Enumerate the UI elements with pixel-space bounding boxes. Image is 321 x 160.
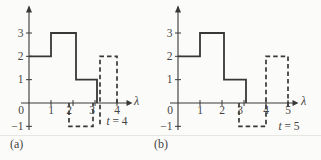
x-tick-label-2: 2 <box>219 104 225 116</box>
x-tick-label-0: 0 <box>167 104 173 116</box>
y-tick-label--1: −1 <box>160 120 172 132</box>
chart-a: 01234−1123 <box>11 6 132 132</box>
x-tick-label-3: 3 <box>237 104 243 116</box>
y-tick-label-3: 3 <box>167 27 173 39</box>
x-tick-label-1: 1 <box>48 104 54 116</box>
x-axis-label-lambda-b: λ <box>301 95 306 108</box>
time-annotation-a: t = 4 <box>100 115 134 128</box>
y-tick-label-1: 1 <box>18 73 24 85</box>
x-axis-label-lambda-a: λ <box>134 95 139 108</box>
y-tick-label-2: 2 <box>167 50 173 62</box>
convolution-step-figure: 01234−1123012345−1123 λ λ t = 4 t = 5 (a… <box>0 0 321 160</box>
chart-b: 012345−1123 <box>160 6 298 132</box>
y-axis-arrow <box>175 6 181 13</box>
x-tick-label-3: 3 <box>89 104 95 116</box>
y-tick-label-3: 3 <box>18 27 24 39</box>
solid-step-line <box>29 33 97 103</box>
subfigure-caption-b: (b) <box>154 138 168 151</box>
y-tick-label-2: 2 <box>18 50 24 62</box>
y-axis-arrow <box>26 6 32 13</box>
x-axis-arrow <box>293 100 299 106</box>
x-tick-label-0: 0 <box>18 104 24 116</box>
y-tick-label--1: −1 <box>11 120 23 132</box>
charts-canvas: 01234−1123012345−1123 <box>0 0 321 160</box>
solid-step-line <box>178 33 246 103</box>
x-tick-label-4: 4 <box>114 104 120 116</box>
x-tick-label-1: 1 <box>197 104 203 116</box>
time-value-b: = 5 <box>282 120 300 132</box>
x-axis-arrow <box>127 100 133 106</box>
time-value-a: = 4 <box>110 115 128 127</box>
y-tick-label-1: 1 <box>167 73 173 85</box>
time-annotation-b: t = 5 <box>271 120 307 133</box>
subfigure-caption-a: (a) <box>10 138 23 151</box>
